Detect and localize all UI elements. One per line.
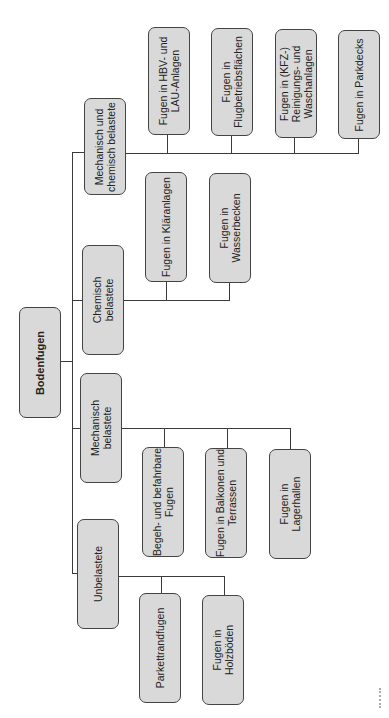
- leaf-label: Fugen in (KFZ-) Reinigungs- und Waschanl…: [278, 45, 314, 121]
- category-label: Mechanisch und chemisch belastete: [93, 102, 117, 192]
- bus-cat2: [122, 428, 291, 429]
- leaf-label: Fugen in Balkonen und Terrassen: [214, 449, 238, 557]
- root-node: Bodenfugen: [19, 307, 61, 418]
- leaf-label: Fugen in Holzböden: [211, 625, 235, 675]
- leaf-label: Fugen in Lagerhallen: [278, 477, 302, 532]
- leaf-node-reinigung: Fugen in (KFZ-) Reinigungs- und Waschanl…: [275, 29, 317, 138]
- leaf-node-hbv-lau: Fugen in HBV- und LAU-Anlagen: [148, 27, 190, 135]
- stem-cat3-0: [161, 576, 162, 593]
- stem-cat2-0: [164, 428, 165, 447]
- category-node-mechanisch: Mechanisch belastete: [80, 373, 122, 483]
- category-node-chemisch: Chemisch belastete: [82, 245, 124, 355]
- stem-cat0-2: [294, 138, 295, 153]
- leaf-node-wasserbecken: Fugen in Wasserbecken: [209, 173, 251, 283]
- leaf-node-holzboeden: Fugen in Holzböden: [202, 595, 244, 705]
- category-label: Mechanisch belastete: [89, 400, 113, 456]
- category-node-unbelastete: Unbelastete: [77, 519, 119, 629]
- stem-cat3-1: [224, 576, 225, 595]
- leaf-label: Begeh- und befahrbare Fugen: [151, 448, 175, 556]
- leaf-label: Fugen in HBV- und LAU-Anlagen: [157, 37, 181, 126]
- root-label: Bodenfugen: [34, 330, 46, 394]
- connector-cat0: [72, 152, 84, 153]
- leaf-label: Fugen in Parkdecks: [353, 38, 365, 131]
- connector-cat2: [72, 428, 80, 429]
- leaf-node-begehbar: Begeh- und befahrbare Fugen: [142, 447, 184, 557]
- stem-cat0-0: [167, 135, 168, 153]
- bus-cat3: [119, 576, 224, 577]
- category-label: Unbelastete: [92, 546, 104, 602]
- leaf-label: Fugen in Flugbetriebsflächen: [220, 36, 244, 128]
- leaf-label: Fugen in Wasserbecken: [218, 193, 242, 262]
- bus-cat0-main: [126, 153, 359, 154]
- stem-cat0-3: [358, 139, 359, 153]
- category-node-mech-chem: Mechanisch und chemisch belastete: [84, 98, 126, 195]
- leaf-node-lagerhallen: Fugen in Lagerhallen: [269, 449, 311, 559]
- stem-cat0-1: [231, 136, 232, 153]
- category-label: Chemisch belastete: [91, 277, 115, 324]
- root-connector: [61, 361, 72, 362]
- diagram-canvas: Bodenfugen Mechanisch und chemisch belas…: [0, 0, 389, 718]
- leaf-node-parkdecks: Fugen in Parkdecks: [338, 30, 380, 139]
- leaf-node-flugbetrieb: Fugen in Flugbetriebsflächen: [211, 28, 253, 136]
- stem-cat1-1: [229, 283, 230, 300]
- leaf-label: Fugen in Kläranlagen: [160, 177, 172, 277]
- stem-cat2-2: [290, 428, 291, 449]
- page-edge-marks: [379, 688, 384, 708]
- stem-cat2-1: [227, 428, 228, 448]
- trunk-line: [72, 152, 73, 574]
- connector-cat1: [72, 300, 82, 301]
- leaf-node-parkettrandfugen: Parkettrandfugen: [139, 593, 181, 703]
- leaf-label: Parkettrandfugen: [154, 608, 166, 689]
- leaf-node-balkone: Fugen in Balkonen und Terrassen: [205, 448, 247, 558]
- bus-cat1: [124, 300, 230, 301]
- stem-cat1-0: [166, 282, 167, 300]
- leaf-node-klaeranlagen: Fugen in Kläranlagen: [145, 172, 187, 282]
